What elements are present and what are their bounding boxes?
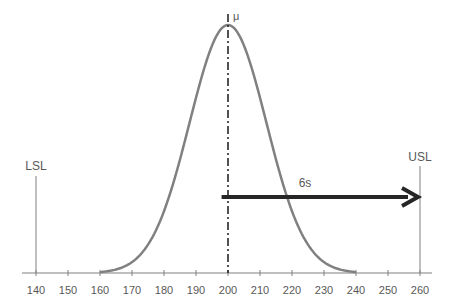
usl-label: USL: [408, 150, 432, 164]
mean-label: μ: [233, 10, 239, 22]
x-tick-label: 180: [155, 284, 173, 296]
x-tick-label: 220: [283, 284, 301, 296]
x-tick-label: 150: [59, 284, 77, 296]
x-tick-label: 240: [347, 284, 365, 296]
x-tick-label: 200: [219, 284, 237, 296]
lsl-label: LSL: [25, 159, 47, 173]
x-tick-label: 170: [123, 284, 141, 296]
x-tick-label: 250: [379, 284, 397, 296]
process-capability-chart: 140150160170180190200210220230240250260 …: [0, 0, 456, 306]
x-tick-label: 160: [91, 284, 109, 296]
chart-canvas: 140150160170180190200210220230240250260 …: [0, 0, 456, 306]
x-tick-label: 140: [27, 284, 45, 296]
x-tick-label: 260: [411, 284, 429, 296]
six-sigma-label: 6s: [299, 176, 312, 190]
x-tick-label: 210: [251, 284, 269, 296]
x-tick-label: 190: [187, 284, 205, 296]
x-axis-ticks: 140150160170180190200210220230240250260: [27, 270, 429, 296]
x-tick-label: 230: [315, 284, 333, 296]
